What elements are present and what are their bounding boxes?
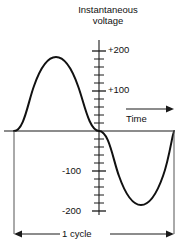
ytick-label-plus-200: +200 bbox=[108, 44, 129, 55]
ytick-label-plus-100: +100 bbox=[108, 84, 129, 95]
ytick-label-minus-100: -100 bbox=[62, 165, 81, 176]
one-cycle-span-arrow bbox=[14, 231, 174, 238]
time-direction-arrow bbox=[126, 106, 174, 113]
cycle-span-label: 1 cycle bbox=[62, 228, 92, 239]
ac-voltage-waveform-figure: Instantaneous voltage bbox=[0, 0, 177, 251]
ytick-label-minus-200: -200 bbox=[62, 205, 81, 216]
waveform-canvas bbox=[0, 0, 177, 251]
x-axis-label-time: Time bbox=[126, 113, 147, 124]
